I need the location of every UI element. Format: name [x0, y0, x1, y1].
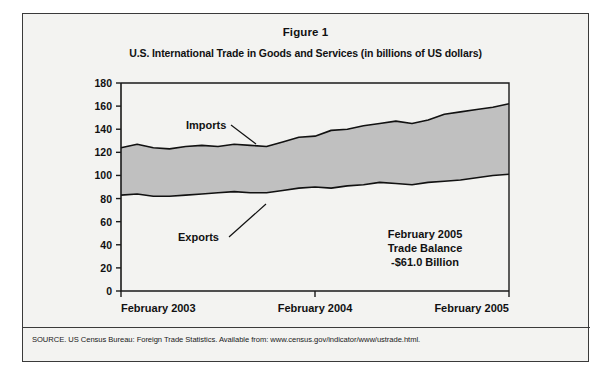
- source-note: SOURCE. US Census Bureau: Foreign Trade …: [32, 335, 582, 344]
- imports-leader-line: [231, 125, 256, 144]
- x-axis-tick-label: February 2003: [121, 302, 196, 314]
- callout-line-3: -$61.0 Billion: [391, 256, 459, 268]
- y-axis-tick-label: 180: [94, 77, 112, 89]
- trade-gap-band: [121, 104, 509, 196]
- y-axis-tick-label: 80: [100, 193, 112, 205]
- series-label-imports: Imports: [186, 119, 226, 131]
- source-divider: [23, 327, 590, 328]
- y-axis-tick-label: 120: [94, 146, 112, 158]
- y-axis-tick-label: 100: [94, 169, 112, 181]
- y-axis-tick-label: 40: [100, 239, 112, 251]
- y-axis-tick-label: 160: [94, 100, 112, 112]
- figure-panel: Figure 1 U.S. International Trade in Goo…: [22, 13, 589, 362]
- series-label-exports: Exports: [178, 231, 219, 243]
- x-axis-tick-label: February 2005: [434, 302, 509, 314]
- chart-plot-area: 020406080100120140160180February 2003Feb…: [23, 14, 590, 363]
- x-axis-tick-label: February 2004: [278, 302, 353, 314]
- y-axis-tick-label: 60: [100, 216, 112, 228]
- callout-line-1: February 2005: [388, 228, 463, 240]
- y-axis-tick-label: 20: [100, 262, 112, 274]
- exports-leader-line: [229, 204, 266, 237]
- callout-line-2: Trade Balance: [388, 242, 463, 254]
- y-axis-tick-label: 140: [94, 123, 112, 135]
- y-axis-tick-label: 0: [106, 285, 112, 297]
- trade-area-chart: 020406080100120140160180February 2003Feb…: [23, 14, 590, 363]
